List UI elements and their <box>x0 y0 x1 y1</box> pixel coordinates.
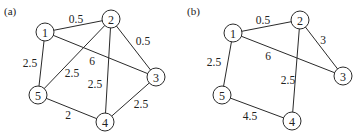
node-2: 2 <box>102 10 120 28</box>
panel-a: (a)0.50.562.52.52.52.5212345 <box>4 5 165 131</box>
edge-weight-1-2: 0.5 <box>256 14 271 26</box>
edge-weight-2-4: 2.5 <box>88 78 103 90</box>
node-label: 1 <box>230 27 236 41</box>
node-label: 5 <box>35 89 41 103</box>
edge-weight-1-3: 6 <box>89 55 95 67</box>
node-label: 2 <box>297 14 303 28</box>
edge-weight-1-5: 2.5 <box>207 56 222 68</box>
panel-b: (b)0.5362.52.54.512345 <box>187 5 352 130</box>
node-label: 5 <box>219 89 225 103</box>
node-label: 1 <box>42 26 48 40</box>
panel-label: (b) <box>187 5 200 18</box>
node-label: 3 <box>153 71 159 85</box>
edge-weight-1-2: 0.5 <box>69 13 84 25</box>
node-5: 5 <box>213 86 231 104</box>
edge-2-4 <box>292 20 300 121</box>
edge-5-4 <box>38 95 105 122</box>
edge-2-4 <box>105 19 111 122</box>
node-4: 4 <box>283 112 301 130</box>
edge-1-5 <box>38 32 45 95</box>
node-label: 4 <box>289 115 295 129</box>
edge-weight-5-4: 2 <box>65 109 71 121</box>
node-4: 4 <box>96 113 114 131</box>
edge-weight-1-3: 6 <box>265 50 271 62</box>
node-1: 1 <box>224 24 242 42</box>
node-3: 3 <box>147 68 165 86</box>
graph-figure: (a)0.50.562.52.52.52.5212345 (b)0.5362.5… <box>0 0 363 140</box>
node-3: 3 <box>334 67 352 85</box>
node-label: 2 <box>108 13 114 27</box>
edge-weight-5-4: 4.5 <box>243 110 258 122</box>
node-5: 5 <box>29 86 47 104</box>
node-label: 4 <box>102 116 108 130</box>
panel-label: (a) <box>4 5 17 18</box>
node-2: 2 <box>291 11 309 29</box>
edge-3-4 <box>105 77 156 122</box>
edge-weight-1-5: 2.5 <box>23 57 38 69</box>
node-label: 3 <box>340 70 346 84</box>
edge-weight-2-5: 2.5 <box>65 67 80 79</box>
edge-weight-3-4: 2.5 <box>134 98 149 110</box>
node-1: 1 <box>36 23 54 41</box>
edge-weight-2-3: 3 <box>320 34 326 46</box>
edge-weight-2-4: 2.5 <box>281 74 296 86</box>
edge-weight-2-3: 0.5 <box>136 35 151 47</box>
